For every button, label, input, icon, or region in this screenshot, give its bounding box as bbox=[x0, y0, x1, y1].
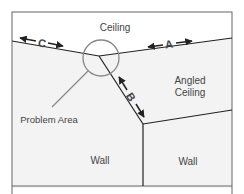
left-wall-label: Wall bbox=[90, 155, 109, 166]
ceiling-label: Ceiling bbox=[100, 22, 131, 33]
dimension-a-label: A bbox=[164, 38, 173, 51]
ceiling-diagram: C A B Ceiling Angled Ceiling Problem Are… bbox=[0, 0, 244, 194]
problem-area-label: Problem Area bbox=[20, 114, 78, 125]
right-wall-label: Wall bbox=[178, 156, 197, 167]
angled-ceiling-label-line2: Ceiling bbox=[175, 87, 206, 98]
angled-ceiling-label-line1: Angled bbox=[174, 75, 205, 86]
